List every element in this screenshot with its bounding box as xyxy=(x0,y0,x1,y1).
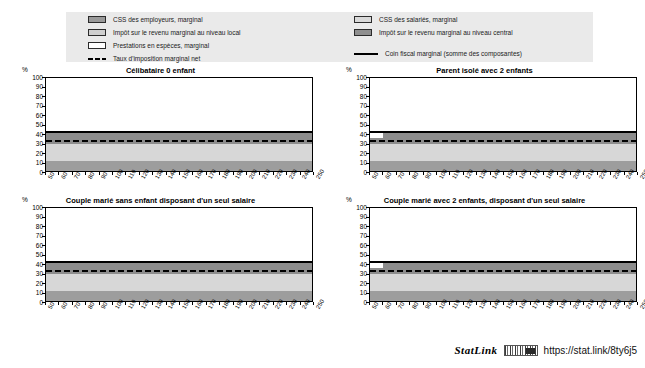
x-tick-label: 80 xyxy=(87,171,96,180)
legend-label: CSS des salariés, marginal xyxy=(379,16,457,23)
x-tick-mark xyxy=(300,302,301,305)
x-tick-mark xyxy=(58,302,59,305)
panel-title: Célibataire 0 enfant xyxy=(8,66,313,75)
net-marginal-tax-rate-line xyxy=(370,140,636,142)
y-tick-label: 90 xyxy=(351,213,367,220)
plot-frame xyxy=(369,77,637,172)
y-tick-label: 30 xyxy=(27,140,43,147)
legend-item-marginal-tax-wedge: Coin fiscal marginal (somme des composan… xyxy=(354,48,522,59)
x-tick-mark xyxy=(597,172,598,175)
x-tick-mark xyxy=(436,302,437,305)
x-tick-mark xyxy=(369,172,370,175)
y-tick-label: 10 xyxy=(27,289,43,296)
y-tick-label: 40 xyxy=(351,261,367,268)
x-tick-mark xyxy=(300,172,301,175)
band-employee-css xyxy=(46,144,312,161)
x-tick-mark xyxy=(179,172,180,175)
x-tick-mark xyxy=(139,172,140,175)
legend-label: Prestations en espèces, marginal xyxy=(113,42,209,49)
x-tick-mark xyxy=(72,302,73,305)
x-tick-mark xyxy=(152,302,153,305)
legend-column-left: CSS des employeurs, marginal Impôt sur l… xyxy=(88,12,241,64)
x-tick-mark xyxy=(219,172,220,175)
first-segment-notch xyxy=(370,132,383,138)
net-marginal-tax-rate-line xyxy=(46,140,312,142)
y-tick-label: 20 xyxy=(351,280,367,287)
x-tick-mark xyxy=(369,302,370,305)
panel-title: Couple marié sans enfant disposant d'un … xyxy=(8,196,313,205)
y-tick-label: 40 xyxy=(27,261,43,268)
x-tick-mark xyxy=(409,302,410,305)
x-tick-mark xyxy=(557,172,558,175)
x-tick-mark xyxy=(570,302,571,305)
y-tick-label: 100 xyxy=(27,74,43,81)
x-tick-mark xyxy=(503,172,504,175)
y-tick-label: 80 xyxy=(351,223,367,230)
x-tick-label: 80 xyxy=(411,171,420,180)
panel-couple-sans-enfant: %Couple marié sans enfant disposant d'un… xyxy=(8,196,313,323)
x-tick-mark xyxy=(112,302,113,305)
x-tick-mark xyxy=(409,172,410,175)
x-tick-mark xyxy=(624,172,625,175)
panel-couple-2-enfants: %Couple marié avec 2 enfants, disposant … xyxy=(332,196,637,323)
x-tick-mark xyxy=(246,172,247,175)
x-tick-mark xyxy=(233,302,234,305)
x-tick-mark xyxy=(179,302,180,305)
first-segment-notch xyxy=(370,262,383,268)
plot-area xyxy=(369,77,637,172)
y-tick-label: 80 xyxy=(27,93,43,100)
x-tick-mark xyxy=(313,172,314,175)
employer-swatch xyxy=(88,16,106,23)
x-tick-mark xyxy=(516,302,517,305)
statlink-label: StatLink xyxy=(454,344,497,356)
x-tick-label: 90 xyxy=(424,301,433,310)
dashed-line-marker xyxy=(88,55,106,62)
y-tick-label: 30 xyxy=(351,140,367,147)
y-tick-label: 50 xyxy=(27,121,43,128)
marginal-tax-wedge-line xyxy=(46,131,312,132)
x-tick-mark xyxy=(583,172,584,175)
legend-item-cash-benefits: Prestations en espèces, marginal xyxy=(88,40,241,51)
x-tick-label: 90 xyxy=(100,171,109,180)
legend-label: Impôt sur le revenu marginal au niveau c… xyxy=(379,29,513,36)
y-tick-label: 60 xyxy=(27,112,43,119)
x-tick-mark xyxy=(192,302,193,305)
y-tick-label: 100 xyxy=(351,74,367,81)
x-tick-mark xyxy=(85,302,86,305)
legend-item-employer-css: CSS des employeurs, marginal xyxy=(88,14,241,25)
x-tick-mark xyxy=(166,302,167,305)
y-tick-label: 40 xyxy=(27,131,43,138)
x-tick-mark xyxy=(72,172,73,175)
y-tick-label: 10 xyxy=(351,289,367,296)
benefits-swatch xyxy=(88,42,106,49)
y-tick-label: 80 xyxy=(27,223,43,230)
x-tick-mark xyxy=(259,172,260,175)
panel-parent-isole: %Parent isolé avec 2 enfants100908070605… xyxy=(332,66,637,193)
x-tick-label: 250 xyxy=(315,168,325,180)
x-tick-mark xyxy=(273,172,274,175)
x-tick-label: 50 xyxy=(47,171,56,180)
x-tick-mark xyxy=(557,302,558,305)
x-tick-mark xyxy=(396,302,397,305)
x-tick-mark xyxy=(423,302,424,305)
legend-item-local-income-tax: Impôt sur le revenu marginal au niveau l… xyxy=(88,27,241,38)
y-tick-label: 20 xyxy=(27,150,43,157)
employee-swatch xyxy=(354,16,372,23)
statlink-url[interactable]: https://stat.link/8ty6j5 xyxy=(544,345,637,356)
x-tick-mark xyxy=(139,302,140,305)
x-tick-mark xyxy=(476,302,477,305)
y-tick-label: 30 xyxy=(27,270,43,277)
y-tick-label: 20 xyxy=(351,150,367,157)
y-tick-label: 100 xyxy=(27,204,43,211)
x-tick-mark xyxy=(490,302,491,305)
legend-label: Taux d'imposition marginal net xyxy=(113,55,200,62)
x-tick-mark xyxy=(85,172,86,175)
x-tick-mark xyxy=(610,302,611,305)
plot-frame xyxy=(369,207,637,302)
x-tick-mark xyxy=(58,172,59,175)
x-tick-mark xyxy=(583,302,584,305)
x-tick-mark xyxy=(436,172,437,175)
y-tick-label: 90 xyxy=(27,213,43,220)
x-tick-mark xyxy=(382,172,383,175)
y-tick-label: 40 xyxy=(351,131,367,138)
